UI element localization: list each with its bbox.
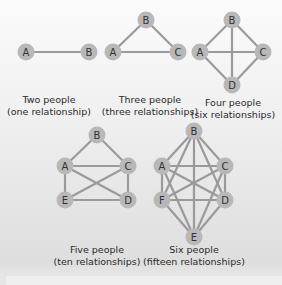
svg-text:D: D xyxy=(124,195,132,206)
caption-four-people: Four people (six relationships) xyxy=(191,97,275,121)
graph-five-people: ABCDE xyxy=(57,127,137,209)
node-d: D xyxy=(224,77,241,94)
node-e: E xyxy=(57,192,74,209)
caption-subtitle: (six relationships) xyxy=(191,109,275,121)
caption-subtitle: (three relationships) xyxy=(102,106,198,118)
node-c: C xyxy=(255,44,272,61)
svg-text:C: C xyxy=(175,47,182,58)
caption-title: Six people xyxy=(143,244,245,256)
node-c: C xyxy=(120,158,137,175)
caption-six-people: Six people (fifteen relationships) xyxy=(143,244,245,268)
node-b: B xyxy=(81,44,98,61)
svg-text:C: C xyxy=(222,161,229,172)
svg-text:B: B xyxy=(86,47,93,58)
svg-text:D: D xyxy=(228,80,236,91)
graph-three-people: ABC xyxy=(105,12,187,61)
node-a: A xyxy=(18,44,35,61)
bottom-border-strip xyxy=(6,276,282,285)
caption-subtitle: (fifteen relationships) xyxy=(143,256,245,268)
svg-text:A: A xyxy=(197,47,204,58)
node-d: D xyxy=(120,192,137,209)
caption-five-people: Five people (ten relationships) xyxy=(54,244,141,268)
caption-title: Three people xyxy=(102,94,198,106)
svg-text:A: A xyxy=(62,161,69,172)
svg-text:D: D xyxy=(221,195,229,206)
svg-text:B: B xyxy=(191,126,198,137)
svg-text:E: E xyxy=(191,232,197,243)
svg-text:A: A xyxy=(159,161,166,172)
svg-text:C: C xyxy=(125,161,132,172)
caption-three-people: Three people (three relationships) xyxy=(102,94,198,118)
svg-text:B: B xyxy=(229,15,236,26)
node-a: A xyxy=(192,44,209,61)
caption-subtitle: (one relationship) xyxy=(7,106,91,118)
svg-text:A: A xyxy=(23,47,30,58)
node-a: A xyxy=(105,44,122,61)
node-c: C xyxy=(170,44,187,61)
svg-text:A: A xyxy=(110,47,117,58)
node-b: B xyxy=(224,12,241,29)
caption-title: Two people xyxy=(7,94,91,106)
node-a: A xyxy=(57,158,74,175)
node-b: B xyxy=(89,127,106,144)
node-a: A xyxy=(154,158,171,175)
node-d: D xyxy=(217,192,234,209)
svg-text:B: B xyxy=(143,15,150,26)
svg-text:C: C xyxy=(260,47,267,58)
relationships-diagram-panel: ABABCABCDABCDEABCDEF Two people (one rel… xyxy=(0,0,282,285)
svg-text:E: E xyxy=(62,195,68,206)
node-f: F xyxy=(154,192,171,209)
caption-two-people: Two people (one relationship) xyxy=(7,94,91,118)
caption-title: Four people xyxy=(191,97,275,109)
svg-text:F: F xyxy=(159,195,165,206)
node-b: B xyxy=(138,12,155,29)
graph-four-people: ABCD xyxy=(192,12,272,94)
caption-title: Five people xyxy=(54,244,141,256)
node-b: B xyxy=(186,123,203,140)
caption-subtitle: (ten relationships) xyxy=(54,256,141,268)
svg-text:B: B xyxy=(94,130,101,141)
network-graphs: ABABCABCDABCDEABCDEF xyxy=(0,0,282,285)
graph-six-people: ABCDEF xyxy=(154,123,234,246)
node-e: E xyxy=(186,229,203,246)
graph-two-people: AB xyxy=(18,44,98,61)
node-c: C xyxy=(217,158,234,175)
